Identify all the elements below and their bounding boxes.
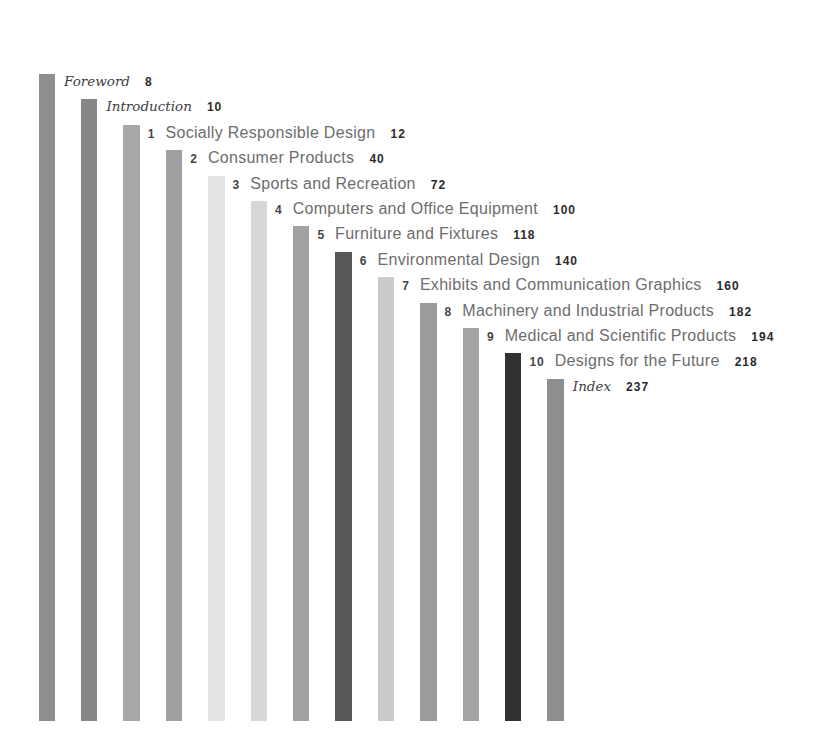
chapter-number: 4 bbox=[275, 201, 283, 220]
section-label: Introduction bbox=[106, 97, 192, 116]
toc-entry-chapter-7: 7Exhibits and Communication Graphics160 bbox=[402, 275, 739, 294]
toc-bar-chapter-7 bbox=[378, 277, 395, 721]
chapter-number: 2 bbox=[190, 150, 198, 169]
toc-bar-chapter-6 bbox=[335, 252, 352, 721]
toc-bar-chapter-3 bbox=[208, 176, 225, 721]
toc-bar-chapter-9 bbox=[463, 328, 480, 721]
toc-bar-foreword bbox=[39, 74, 56, 721]
toc-bar-chapter-4 bbox=[251, 201, 268, 721]
toc-entry-foreword: Foreword8 bbox=[64, 72, 153, 91]
toc-bar-chapter-2 bbox=[166, 150, 183, 721]
page-number: 194 bbox=[751, 328, 774, 347]
toc-bar-chapter-10 bbox=[505, 353, 522, 721]
toc-entry-chapter-9: 9Medical and Scientific Products194 bbox=[487, 326, 774, 345]
chapter-title: Medical and Scientific Products bbox=[505, 326, 737, 345]
toc-bar-introduction bbox=[81, 99, 98, 721]
toc-bar-chapter-5 bbox=[293, 226, 310, 721]
chapter-number: 8 bbox=[445, 303, 453, 322]
page-number: 72 bbox=[431, 176, 446, 195]
chapter-title: Environmental Design bbox=[377, 250, 540, 269]
chapter-title: Sports and Recreation bbox=[250, 174, 416, 193]
chapter-number: 7 bbox=[402, 277, 410, 296]
toc-entry-introduction: Introduction10 bbox=[106, 97, 222, 116]
toc-entry-chapter-3: 3Sports and Recreation72 bbox=[233, 174, 447, 193]
toc-entry-chapter-2: 2Consumer Products40 bbox=[190, 148, 385, 167]
toc-entry-chapter-4: 4Computers and Office Equipment100 bbox=[275, 199, 576, 218]
chapter-title: Socially Responsible Design bbox=[165, 123, 375, 142]
page-number: 118 bbox=[513, 226, 535, 245]
section-label: Index bbox=[573, 377, 611, 396]
chapter-title: Machinery and Industrial Products bbox=[462, 301, 714, 320]
chapter-number: 3 bbox=[233, 176, 241, 195]
toc-bar-chapter-8 bbox=[420, 303, 437, 721]
chapter-title: Exhibits and Communication Graphics bbox=[420, 275, 702, 294]
toc-entry-chapter-5: 5Furniture and Fixtures118 bbox=[317, 224, 535, 243]
page-number: 218 bbox=[735, 353, 758, 372]
chapter-title: Furniture and Fixtures bbox=[335, 224, 498, 243]
page-number: 160 bbox=[717, 277, 740, 296]
page-number: 12 bbox=[390, 125, 405, 144]
page-number: 140 bbox=[555, 252, 578, 271]
chapter-number: 5 bbox=[317, 226, 325, 245]
toc-entry-chapter-8: 8Machinery and Industrial Products182 bbox=[445, 301, 753, 320]
page-number: 182 bbox=[729, 303, 752, 322]
toc-entry-chapter-10: 10Designs for the Future218 bbox=[529, 351, 757, 370]
chapter-number: 10 bbox=[529, 353, 544, 372]
chapter-title: Computers and Office Equipment bbox=[293, 199, 538, 218]
page-number: 40 bbox=[369, 150, 384, 169]
page-number: 237 bbox=[626, 378, 649, 397]
page-number: 100 bbox=[553, 201, 576, 220]
chapter-title: Consumer Products bbox=[208, 148, 355, 167]
chapter-title: Designs for the Future bbox=[555, 351, 720, 370]
chapter-number: 6 bbox=[360, 252, 368, 271]
toc-entry-chapter-1: 1Socially Responsible Design12 bbox=[148, 123, 406, 142]
chapter-number: 1 bbox=[148, 125, 156, 144]
toc-entry-chapter-6: 6Environmental Design140 bbox=[360, 250, 578, 269]
section-label: Foreword bbox=[64, 72, 130, 91]
toc-bar-index bbox=[547, 379, 564, 721]
page-number: 10 bbox=[207, 98, 222, 117]
page-number: 8 bbox=[145, 73, 153, 92]
chapter-number: 9 bbox=[487, 328, 495, 347]
toc-entry-index: Index237 bbox=[573, 377, 649, 396]
toc-bar-chapter-1 bbox=[123, 125, 140, 721]
toc-page: Foreword8Introduction101Socially Respons… bbox=[0, 0, 819, 754]
